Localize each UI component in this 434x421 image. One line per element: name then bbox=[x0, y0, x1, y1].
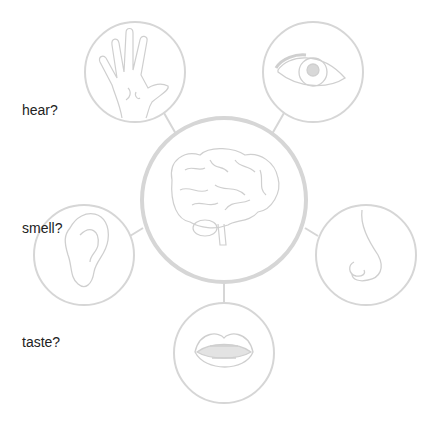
connector-hand bbox=[164, 113, 176, 134]
connector-nose bbox=[305, 228, 318, 236]
nose-circle bbox=[316, 205, 416, 305]
nose-icon bbox=[350, 210, 381, 281]
label-smell: smell? bbox=[22, 220, 62, 236]
eye-icon bbox=[276, 55, 345, 86]
senses-diagram bbox=[0, 0, 434, 421]
connector-eye bbox=[272, 113, 284, 134]
brain-circle bbox=[142, 118, 306, 282]
label-taste: taste? bbox=[22, 334, 60, 350]
mouth-icon bbox=[195, 334, 253, 367]
connector-ear bbox=[130, 228, 143, 236]
hand-icon bbox=[100, 29, 169, 119]
ear-icon bbox=[65, 214, 108, 287]
label-hear: hear? bbox=[22, 102, 58, 118]
hand-circle bbox=[85, 22, 185, 122]
brain-icon bbox=[171, 149, 278, 245]
